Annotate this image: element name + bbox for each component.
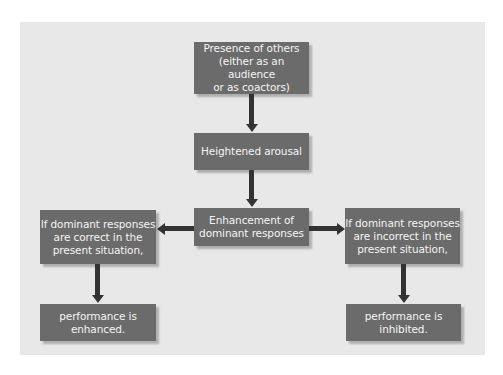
node-label: performance is enhanced. <box>59 310 137 336</box>
arrowhead-right-icon <box>337 223 345 235</box>
node-responses-incorrect: If dominant responses are incorrect in t… <box>345 208 460 264</box>
arrow-incorrect-to-inhibited <box>401 264 406 296</box>
node-heightened-arousal: Heightened arousal <box>194 133 309 170</box>
node-label: If dominant responses are correct in the… <box>41 218 156 257</box>
node-label: Heightened arousal <box>201 145 302 158</box>
arrow-presence-to-arousal <box>249 94 254 125</box>
arrow-enhancement-to-correct <box>164 226 194 231</box>
node-label: Presence of others (either as an audienc… <box>194 42 309 94</box>
node-performance-inhibited: performance is inhibited. <box>346 304 461 341</box>
node-enhancement-of-dominant-responses: Enhancement of dominant responses <box>194 208 309 246</box>
node-label: If dominant responses are incorrect in t… <box>345 217 460 256</box>
node-label: Enhancement of dominant responses <box>199 214 304 240</box>
arrowhead-down-icon <box>246 124 258 132</box>
arrow-correct-to-enhanced <box>95 264 100 296</box>
node-responses-correct: If dominant responses are correct in the… <box>40 210 156 264</box>
arrowhead-down-icon <box>246 199 258 207</box>
node-label: performance is inhibited. <box>365 310 443 336</box>
arrowhead-down-icon <box>92 295 104 303</box>
node-presence-of-others: Presence of others (either as an audienc… <box>194 42 309 94</box>
arrowhead-down-icon <box>398 295 410 303</box>
arrowhead-left-icon <box>157 223 165 235</box>
arrow-arousal-to-enhancement <box>249 170 254 200</box>
arrow-enhancement-to-incorrect <box>309 226 338 231</box>
node-performance-enhanced: performance is enhanced. <box>40 304 156 341</box>
